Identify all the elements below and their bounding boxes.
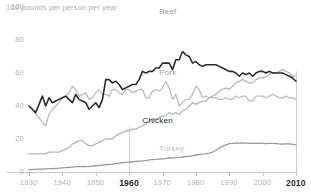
y-axis-label-60: 60 xyxy=(2,68,24,77)
x-axis-label-1970: 1970 xyxy=(154,178,172,187)
series-line-chicken xyxy=(29,70,296,154)
meat-consumption-line-chart: 100 pounds per person per year 020406080… xyxy=(0,0,311,195)
y-axis-label-20: 20 xyxy=(2,134,24,143)
x-axis-label-1990: 1990 xyxy=(220,178,238,187)
x-axis-label-1960: 1960 xyxy=(119,178,139,188)
x-axis-label-2000: 2000 xyxy=(254,178,272,187)
y-axis-label-0: 0 xyxy=(2,167,24,176)
x-axis-label-1930: 1930 xyxy=(20,178,38,187)
x-axis-label-1980: 1980 xyxy=(187,178,205,187)
x-axis-label-1940: 1940 xyxy=(53,178,71,187)
series-label-pork: Pork xyxy=(159,68,176,77)
chart-plot-area xyxy=(0,0,311,195)
x-axis-label-1950: 1950 xyxy=(87,178,105,187)
series-label-chicken: Chicken xyxy=(142,116,172,125)
y-axis-label-100: 100 xyxy=(2,2,24,11)
y-axis-label-80: 80 xyxy=(2,35,24,44)
series-label-beef: Beef xyxy=(159,7,176,16)
y-axis-label-40: 40 xyxy=(2,101,24,110)
series-line-beef xyxy=(29,52,296,113)
series-label-turkey: Turkey xyxy=(159,144,184,153)
x-axis-label-2010: 2010 xyxy=(286,178,306,188)
